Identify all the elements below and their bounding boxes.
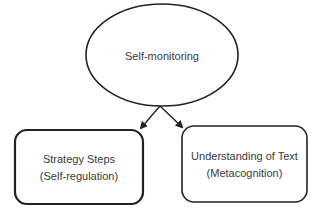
self-monitoring-label: Self-monitoring: [100, 48, 224, 65]
strategy-steps-line1: Strategy Steps: [15, 151, 143, 168]
strategy-steps-line2: (Self-regulation): [15, 168, 143, 185]
understanding-label: Understanding of Text (Metacognition): [182, 148, 307, 182]
arrow-to-strategy-steps: [141, 106, 160, 128]
self-monitoring-text: Self-monitoring: [125, 50, 199, 62]
understanding-line1: Understanding of Text: [182, 148, 307, 165]
understanding-line2: (Metacognition): [182, 165, 307, 182]
arrow-to-understanding: [160, 106, 182, 127]
strategy-steps-label: Strategy Steps (Self-regulation): [15, 151, 143, 185]
diagram-canvas: [0, 0, 324, 218]
